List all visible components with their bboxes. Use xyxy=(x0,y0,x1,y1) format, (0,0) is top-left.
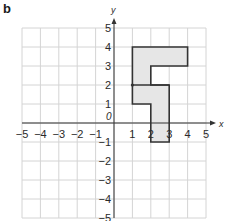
y-tick-label: 4 xyxy=(105,41,111,53)
y-tick-label: 2 xyxy=(105,79,111,91)
x-tick-label: 4 xyxy=(185,128,191,140)
marked-point xyxy=(131,83,134,86)
y-tick-label: −3 xyxy=(98,174,111,186)
x-tick-label: 1 xyxy=(129,128,135,140)
x-tick-label: 5 xyxy=(203,128,209,140)
x-tick-label: −2 xyxy=(71,128,84,140)
shape-outline xyxy=(132,47,187,142)
x-tick-label: 3 xyxy=(166,128,172,140)
y-tick-label: 3 xyxy=(105,60,111,72)
y-axis-label: y xyxy=(110,5,116,15)
x-axis-label: x xyxy=(218,119,224,129)
x-tick-label: −4 xyxy=(34,128,47,140)
y-tick-label: 5 xyxy=(105,22,111,34)
y-tick-label: −1 xyxy=(98,136,111,148)
x-axis-arrow-icon xyxy=(210,121,216,126)
x-tick-label: −3 xyxy=(53,128,66,140)
origin-label: 0 xyxy=(106,111,112,122)
coordinate-grid: xy0−5−4−3−2−11234554321−1−2−3−4−5 xyxy=(0,0,225,221)
x-tick-label: 2 xyxy=(148,128,154,140)
y-axis-arrow-icon xyxy=(112,18,117,24)
y-tick-label: −5 xyxy=(98,212,111,221)
y-tick-label: 1 xyxy=(105,98,111,110)
y-tick-label: −2 xyxy=(98,155,111,167)
x-tick-label: −5 xyxy=(16,128,29,140)
y-tick-label: −4 xyxy=(98,193,111,205)
